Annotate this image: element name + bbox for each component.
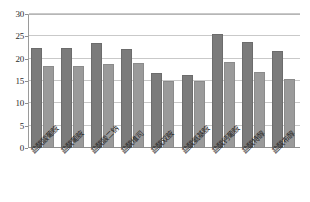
y-tick-label: 20 — [15, 54, 24, 63]
bar-group — [119, 14, 149, 148]
y-tick-label: 0 — [20, 144, 24, 153]
bar-group — [149, 14, 179, 148]
bar — [121, 49, 132, 148]
y-tick-label: 5 — [20, 121, 24, 130]
y-tick-label: 10 — [15, 99, 24, 108]
y-tick-mark — [25, 148, 28, 149]
y-axis: 051015202530 — [0, 0, 28, 148]
bar — [242, 42, 253, 148]
bar — [272, 51, 283, 148]
bar — [31, 48, 42, 149]
bars-layer — [29, 14, 300, 148]
y-tick-label: 30 — [15, 10, 24, 19]
bar — [91, 43, 102, 148]
x-axis: 盐酸酸葡胺盐酸葡胺盐酸酸二钠盐酸维司盐酸双胺盐酸氨基胺盐酸钙葡胺盐酸特醇盐酸布醇 — [29, 150, 300, 202]
bar — [212, 34, 223, 148]
bar — [61, 48, 72, 149]
bar-group — [59, 14, 89, 148]
y-tick-label: 15 — [15, 77, 24, 86]
bar-chart: 051015202530 盐酸酸葡胺盐酸葡胺盐酸酸二钠盐酸维司盐酸双胺盐酸氨基胺… — [0, 0, 310, 202]
bar-group — [270, 14, 300, 148]
bar-group — [240, 14, 270, 148]
y-tick-label: 25 — [15, 32, 24, 41]
